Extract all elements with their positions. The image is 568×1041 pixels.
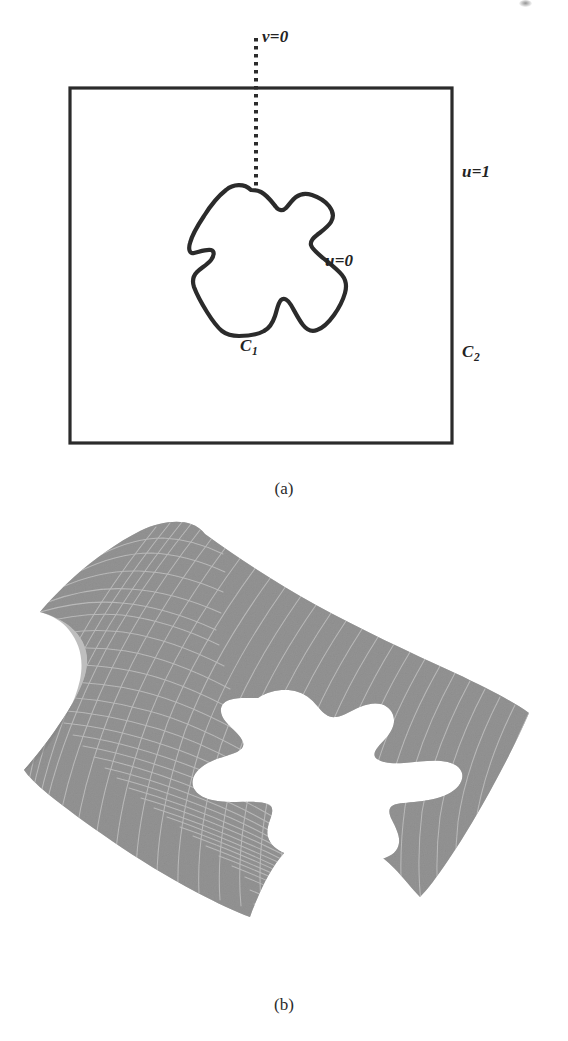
caption-panel-a: (a) xyxy=(0,480,568,497)
label-c2-subscript: 2 xyxy=(474,351,480,363)
label-c2-base: C xyxy=(462,342,474,361)
panel-b-warped-surface: (b) xyxy=(0,520,568,990)
label-curve-c1: C1 xyxy=(240,337,258,357)
label-c1-subscript: 1 xyxy=(252,345,258,357)
panel-b-drawing xyxy=(0,520,568,990)
surface-scan-texture xyxy=(0,520,568,990)
panel-a-parameter-domain: v=0 u=1 u=0 C1 C2 (a) xyxy=(0,0,568,520)
figure-root: v=0 u=1 u=0 C1 C2 (a) xyxy=(0,0,568,1041)
label-curve-c2: C2 xyxy=(462,343,480,363)
label-u-equals-one: u=1 xyxy=(462,163,490,180)
label-u-equals-zero: u=0 xyxy=(325,252,353,269)
label-c1-base: C xyxy=(240,336,252,355)
inner-blob-curve-c1 xyxy=(189,185,346,336)
caption-panel-b: (b) xyxy=(0,996,568,1013)
panel-a-drawing xyxy=(0,0,568,520)
label-v-equals-zero: v=0 xyxy=(262,28,288,45)
